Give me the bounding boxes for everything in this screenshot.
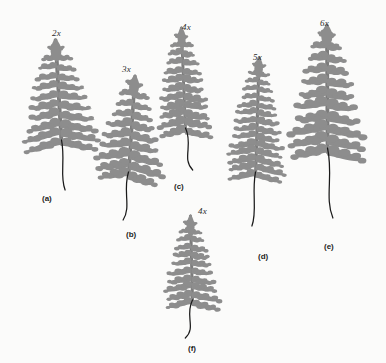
pinna-lobe [293, 102, 301, 107]
fern-specimen-plate: 2x(a)3x(b)4x(c)5x(d)6x(e)4x(f) [0, 0, 386, 363]
pinna-lobe [353, 130, 361, 136]
pinna-lobe [341, 71, 349, 76]
pinna-lobe [308, 57, 314, 61]
pinna-lobe [353, 118, 361, 123]
stipe-d [252, 172, 256, 226]
magnification-label-b: 3x [122, 64, 131, 74]
pinna-lobe [290, 154, 298, 160]
frond-silhouette-e [284, 22, 370, 218]
pinna-lobe [299, 92, 305, 96]
pinna-lobe [341, 59, 347, 63]
pinna-lobe [310, 45, 316, 49]
panel-letter-c: (c) [174, 182, 184, 191]
pinna-lobe [348, 94, 355, 98]
pinna-lobe [288, 143, 296, 148]
stipe-f [185, 300, 192, 338]
specimen-c [152, 24, 218, 170]
frond-silhouette-d [220, 54, 290, 230]
pinna-lobe [304, 99, 314, 106]
pinna-lobe [286, 131, 295, 137]
panel-letter-b: (b) [126, 230, 136, 239]
pinna-lobe [317, 31, 322, 34]
pinna-lobe [301, 79, 307, 83]
pinna-lobe [358, 134, 367, 140]
magnification-label-c: 4x [182, 22, 191, 32]
frond-silhouette-f [158, 212, 226, 338]
panel-letter-f: (f) [188, 344, 196, 353]
stipe-b [123, 172, 128, 220]
pinna-lobe [349, 104, 358, 110]
pinna-lobe [348, 82, 354, 86]
pinna-lobe [295, 115, 304, 121]
specimen-f [158, 212, 226, 338]
magnification-label-e: 6x [320, 18, 329, 28]
pinna-lobe [351, 153, 361, 159]
pinna-lobe [293, 139, 302, 145]
specimen-d [220, 54, 290, 230]
magnification-label-f: 4x [198, 206, 207, 216]
magnification-label-d: 5x [253, 52, 262, 62]
panel-letter-d: (d) [258, 252, 268, 261]
pinna-lobe [305, 136, 314, 142]
stipe-a [62, 140, 66, 190]
stipe-e [328, 148, 333, 218]
pinna-lobe [358, 158, 367, 164]
pinna-lobe [357, 146, 366, 152]
panel-letter-e: (e) [324, 242, 334, 251]
panel-letter-a: (a) [42, 194, 52, 203]
pinna-lobe [336, 46, 342, 50]
specimen-e [284, 22, 370, 218]
frond-silhouette-c [152, 24, 218, 170]
magnification-label-a: 2x [52, 28, 61, 38]
pinna-lobe [302, 69, 309, 74]
